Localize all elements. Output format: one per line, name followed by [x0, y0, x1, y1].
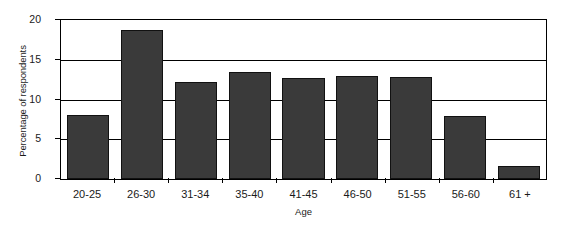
- x-tick-label: 26-30: [114, 186, 168, 202]
- bar-slot: [169, 20, 223, 179]
- x-tick-mark: [276, 178, 277, 183]
- x-tick-mark: [385, 178, 386, 183]
- y-tick-label: 5: [5, 133, 41, 143]
- bar-slot: [384, 20, 438, 179]
- x-tick-mark: [222, 178, 223, 183]
- x-tick-mark: [168, 178, 169, 183]
- x-tick-mark: [331, 178, 332, 183]
- x-tick-slot: [114, 178, 168, 184]
- bar[interactable]: [336, 76, 378, 179]
- bar[interactable]: [282, 78, 324, 179]
- y-tick-label: 20: [5, 14, 41, 24]
- y-tick-label: 15: [5, 54, 41, 64]
- x-tick-slot: [276, 178, 330, 184]
- bar[interactable]: [444, 116, 486, 179]
- bar-slot: [492, 20, 546, 179]
- x-tick-label: 31-34: [168, 186, 222, 202]
- x-tick-slot: [168, 178, 222, 184]
- x-axis-tick-labels: 20-2526-3031-3435-4041-4546-5051-5556-60…: [60, 186, 547, 202]
- x-tick-label: 20-25: [60, 186, 114, 202]
- x-tick-mark: [114, 178, 115, 183]
- bar-slot: [438, 20, 492, 179]
- plot-area: [60, 19, 547, 180]
- x-axis-ticks: [60, 178, 547, 184]
- y-tick-label: 10: [5, 94, 41, 104]
- x-tick-slot: [385, 178, 439, 184]
- bar-chart-figure: Percentage of respondents 05101520 20-25…: [0, 0, 566, 230]
- bar[interactable]: [67, 115, 109, 179]
- bar[interactable]: [229, 72, 271, 179]
- x-axis-title: Age: [60, 206, 547, 218]
- x-tick-mark: [439, 178, 440, 183]
- x-tick-label: 61 +: [493, 186, 547, 202]
- bar-slot: [223, 20, 277, 179]
- x-tick-slot: [222, 178, 276, 184]
- x-tick-label: 51-55: [385, 186, 439, 202]
- y-tick-label: 0: [5, 173, 41, 183]
- x-tick-label: 56-60: [439, 186, 493, 202]
- x-tick-mark: [493, 178, 494, 183]
- x-tick-label: 46-50: [331, 186, 385, 202]
- x-tick-slot: [331, 178, 385, 184]
- x-tick-label: 41-45: [276, 186, 330, 202]
- bar-slot: [115, 20, 169, 179]
- bar[interactable]: [390, 77, 432, 179]
- bars-container: [61, 20, 546, 179]
- bar[interactable]: [121, 30, 163, 179]
- bar-slot: [277, 20, 331, 179]
- bar-slot: [61, 20, 115, 179]
- x-tick-slot: [60, 178, 114, 184]
- x-tick-slot: [439, 178, 493, 184]
- bar-slot: [330, 20, 384, 179]
- x-tick-slot: [493, 178, 547, 184]
- x-tick-label: 35-40: [222, 186, 276, 202]
- bar[interactable]: [175, 82, 217, 179]
